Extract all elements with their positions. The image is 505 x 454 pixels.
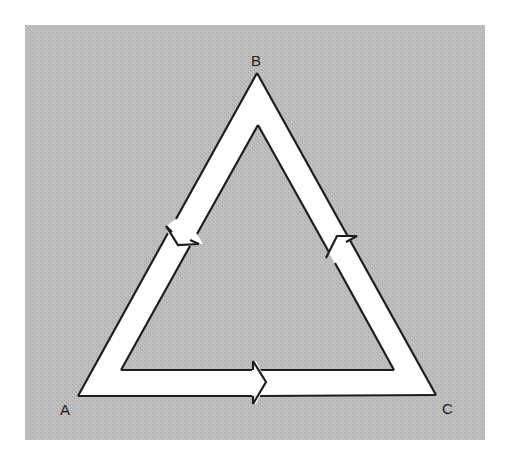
- vertex-label-a: A: [60, 402, 70, 417]
- outer-edge-bottom-right: [256, 395, 436, 396]
- vertex-label-c: C: [442, 401, 453, 416]
- vertex-label-b: B: [251, 53, 261, 68]
